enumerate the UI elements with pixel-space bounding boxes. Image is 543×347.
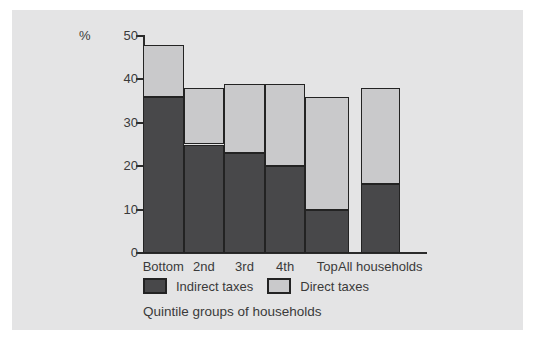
bar-segment-3rd-direct-taxes bbox=[224, 84, 265, 153]
bar-segment-4th-direct-taxes bbox=[265, 84, 306, 166]
legend-swatch-indirect-taxes bbox=[143, 278, 167, 294]
bar-segment-3rd-indirect-taxes bbox=[224, 153, 265, 253]
bar-segment-4th-indirect-taxes bbox=[265, 166, 306, 253]
figure-panel: % 01020304050Bottom2nd3rd4thTopAll house… bbox=[12, 10, 523, 330]
legend-label-indirect-taxes: Indirect taxes bbox=[176, 279, 253, 294]
legend-label-direct-taxes: Direct taxes bbox=[300, 279, 369, 294]
x-category-label-4th: 4th bbox=[276, 259, 294, 274]
bar-segment-all-households-indirect-taxes bbox=[361, 184, 401, 253]
plot-area: % 01020304050Bottom2nd3rd4thTopAll house… bbox=[143, 36, 427, 253]
x-category-label-top: Top bbox=[317, 259, 338, 274]
legend-item-direct-taxes: Direct taxes bbox=[267, 278, 369, 294]
y-tick-label-30: 30 bbox=[101, 115, 138, 131]
bar-segment-2nd-direct-taxes bbox=[184, 88, 225, 144]
x-category-label-2nd: 2nd bbox=[193, 259, 215, 274]
x-axis-caption: Quintile groups of households bbox=[143, 304, 322, 319]
x-category-label-all-households: All households bbox=[338, 259, 423, 274]
y-tick-label-20: 20 bbox=[101, 158, 138, 174]
bar-segment-top-indirect-taxes bbox=[305, 210, 349, 253]
bar-segment-bottom-indirect-taxes bbox=[143, 97, 184, 253]
bar-segment-2nd-indirect-taxes bbox=[184, 145, 225, 254]
legend-swatch-direct-taxes bbox=[267, 278, 291, 294]
x-category-label-3rd: 3rd bbox=[235, 259, 254, 274]
legend-item-indirect-taxes: Indirect taxes bbox=[143, 278, 253, 294]
chart-legend: Indirect taxes Direct taxes bbox=[143, 278, 369, 294]
y-tick-label-50: 50 bbox=[101, 28, 138, 44]
bar-segment-top-direct-taxes bbox=[305, 97, 349, 210]
y-axis-unit-label: % bbox=[79, 28, 97, 44]
y-tick-label-10: 10 bbox=[101, 202, 138, 218]
y-tick-label-40: 40 bbox=[101, 71, 138, 87]
y-tick-label-0: 0 bbox=[101, 245, 138, 261]
x-category-label-bottom: Bottom bbox=[143, 259, 184, 274]
bar-segment-all-households-direct-taxes bbox=[361, 88, 401, 183]
bar-segment-bottom-direct-taxes bbox=[143, 45, 184, 97]
